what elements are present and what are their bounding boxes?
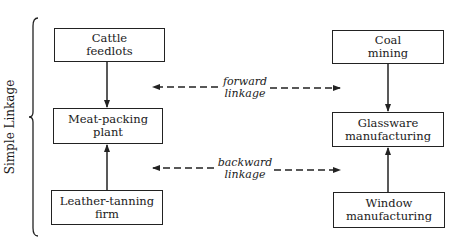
box-line: Leather-tanning [60, 195, 154, 208]
box-line: plant [93, 126, 123, 139]
backward-linkage-label: backward linkage [205, 157, 285, 181]
leather-tanning-firm-box: Leather-tanning firm [51, 190, 163, 225]
label-line: linkage [205, 169, 285, 181]
label-line: linkage [205, 88, 285, 100]
simple-linkage-label: Simple Linkage [3, 80, 17, 175]
box-line: Glassware [358, 117, 419, 130]
forward-linkage-label: forward linkage [205, 76, 285, 100]
coal-mining-box: Coal mining [332, 30, 444, 64]
box-line: manufacturing [345, 130, 431, 143]
glassware-manufacturing-box: Glassware manufacturing [332, 112, 444, 147]
box-line: feedlots [86, 45, 132, 58]
window-manufacturing-box: Window manufacturing [333, 192, 445, 228]
box-line: mining [368, 47, 408, 60]
bracket [29, 18, 38, 236]
cattle-feedlots-box: Cattle feedlots [54, 28, 165, 62]
box-line: manufacturing [346, 210, 432, 223]
meat-packing-plant-box: Meat-packing plant [53, 108, 163, 144]
box-line: firm [95, 208, 119, 221]
